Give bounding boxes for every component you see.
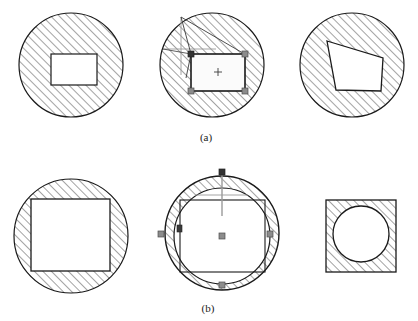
caption-a: (a): [200, 131, 213, 144]
caption-b: (b): [202, 302, 215, 315]
figure-container: (a) (b): [0, 0, 418, 321]
figure-canvas: (a) (b): [0, 0, 418, 321]
hatched-region: [0, 0, 418, 321]
panel-row-b-circle-in-square: [0, 0, 418, 321]
